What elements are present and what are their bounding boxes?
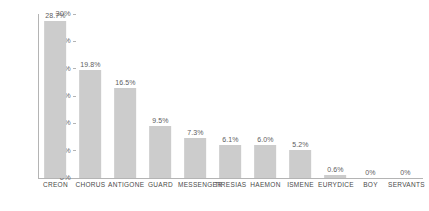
x-axis-category-label: SERVANTS [388, 181, 423, 188]
bar-slot[interactable]: 28.7% [45, 14, 67, 178]
x-axis-line [38, 178, 423, 179]
x-axis-category-label: TIRESIAS [213, 181, 248, 188]
bar-slot[interactable]: 0% [360, 14, 382, 178]
x-axis-category-label: ISMENE [283, 181, 318, 188]
bar-value-label: 7.3% [187, 129, 203, 136]
x-axis-category-label: GUARD [143, 181, 178, 188]
bar[interactable] [185, 138, 207, 178]
bar-value-label: 16.5% [115, 79, 135, 86]
bar-slot[interactable]: 0.6% [325, 14, 347, 178]
bar-slot[interactable]: 7.3% [185, 14, 207, 178]
bar[interactable] [220, 145, 242, 178]
bar[interactable] [150, 126, 172, 178]
x-axis-category-label: CHORUS [73, 181, 108, 188]
bar-value-label: 5.2% [292, 141, 308, 148]
x-axis-category-label: EURYDICE [318, 181, 353, 188]
bar-value-label: 6.1% [222, 136, 238, 143]
bar-slot[interactable]: 5.2% [290, 14, 312, 178]
bar-slot[interactable]: 6.1% [220, 14, 242, 178]
x-axis-category-label: BOY [353, 181, 388, 188]
bar-value-label: 0% [365, 169, 375, 176]
bar-value-label: 9.5% [152, 117, 168, 124]
x-axis-category-label: CREON [38, 181, 73, 188]
bar-slot[interactable]: 16.5% [115, 14, 137, 178]
bar-slot[interactable]: 0% [395, 14, 417, 178]
x-axis-category-label: MESSENGER [178, 181, 213, 188]
bar-slot[interactable]: 6.0% [255, 14, 277, 178]
bar[interactable] [115, 88, 137, 178]
bar[interactable] [45, 21, 67, 178]
bar[interactable] [290, 150, 312, 178]
x-axis-categories: CREONCHORUSANTIGONEGUARDMESSENGERTIRESIA… [38, 181, 423, 201]
bars-container: 28.7%19.8%16.5%9.5%7.3%6.1%6.0%5.2%0.6%0… [38, 14, 423, 178]
x-axis-category-label: ANTIGONE [108, 181, 143, 188]
bar[interactable] [325, 175, 347, 178]
bar-slot[interactable]: 19.8% [80, 14, 102, 178]
bar[interactable] [255, 145, 277, 178]
bar-value-label: 6.0% [257, 136, 273, 143]
bar-value-label: 28.7% [45, 12, 65, 19]
bar-chart: 0%5%10%15%20%25%30% 28.7%19.8%16.5%9.5%7… [0, 0, 429, 211]
bar[interactable] [80, 70, 102, 178]
bar-slot[interactable]: 9.5% [150, 14, 172, 178]
x-axis-category-label: HAEMON [248, 181, 283, 188]
bar-value-label: 0.6% [327, 166, 343, 173]
bar-value-label: 0% [400, 169, 410, 176]
bar-value-label: 19.8% [80, 61, 100, 68]
